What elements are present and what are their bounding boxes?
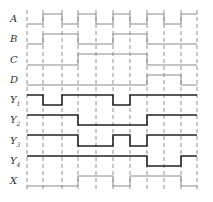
signal-label-a: A xyxy=(9,13,17,24)
waveform-y1 xyxy=(27,95,197,105)
waveform-b xyxy=(27,34,197,44)
timing-diagram: ABCDY1Y2Y3Y4X xyxy=(0,0,213,202)
signal-label-y3: Y3 xyxy=(10,135,21,148)
signal-label-c: C xyxy=(10,54,18,65)
waveform-d xyxy=(27,75,197,85)
signal-label-d: D xyxy=(9,74,18,85)
dashed-gridlines xyxy=(27,10,197,190)
waveform-y2 xyxy=(27,115,197,125)
waveform-y4 xyxy=(27,156,197,166)
waveform-y3 xyxy=(27,135,197,146)
waveform-c xyxy=(27,54,197,65)
signal-label-x: X xyxy=(9,175,18,186)
signal-label-y4: Y4 xyxy=(10,155,21,168)
signal-labels: ABCDY1Y2Y3Y4X xyxy=(9,13,21,186)
signal-label-y2: Y2 xyxy=(10,114,21,127)
waveform-a xyxy=(27,14,197,24)
signal-label-y1: Y1 xyxy=(10,94,20,107)
waveform-x xyxy=(27,176,197,186)
signal-label-b: B xyxy=(9,33,17,44)
waveforms xyxy=(27,14,197,186)
